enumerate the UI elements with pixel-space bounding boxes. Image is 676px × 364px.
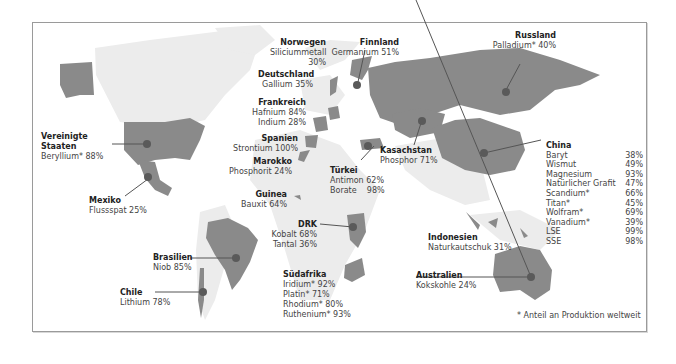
china-row: Natürlicher Grafit47% <box>546 179 643 189</box>
label-finland: Finnland Germanium 51% <box>331 38 399 58</box>
country-usa <box>124 118 205 165</box>
label-norway: Norwegen Siliciummetall 30% <box>270 38 326 68</box>
country-spain <box>305 135 318 148</box>
china-row: SSE98% <box>546 237 643 247</box>
label-china: China Baryt38% Wismut49% Magnesium93% Na… <box>546 141 643 247</box>
label-drc: DRK Kobalt 68% Tantal 36% <box>270 220 317 250</box>
china-row: Vanadium*39% <box>546 218 643 228</box>
footnote: * Anteil an Produktion weltweit <box>517 311 641 320</box>
label-south-africa: Südafrika Iridium* 92% Platin* 71% Rhodi… <box>283 270 351 320</box>
china-row: Titan*45% <box>546 199 643 209</box>
label-guinea: Guinea Bauxit 64% <box>240 190 287 210</box>
label-mexico: Mexiko Flussspat 25% <box>89 196 147 216</box>
country-germany <box>328 106 340 120</box>
label-spain: Spanien Strontium 100% <box>232 134 298 154</box>
label-turkey: Türkei Antimon 62% Borate 98% <box>330 166 385 196</box>
label-indonesia: Indonesien Naturkautschuk 31% <box>428 233 512 253</box>
country-france <box>313 116 328 132</box>
china-row: LSE99% <box>546 227 643 237</box>
china-row: Scandium*66% <box>546 189 643 199</box>
china-row: Wismut49% <box>546 160 643 170</box>
label-germany: Deutschland Gallium 35% <box>258 70 313 90</box>
label-brazil: Brasilien Niob 85% <box>153 253 193 273</box>
label-france: Frankreich Hafnium 84% Indium 28% <box>252 98 306 128</box>
label-australia: Australien Kokskohle 24% <box>416 271 476 291</box>
china-row: Wolfram*69% <box>546 208 643 218</box>
label-usa: Vereinigte Staaten Beryllium* 88% <box>41 132 103 162</box>
china-row: Baryt38% <box>546 151 643 161</box>
label-russia: Russland Palladium* 40% <box>490 31 556 51</box>
label-chile: Chile Lithium 78% <box>120 288 170 308</box>
country-alaska <box>60 62 94 98</box>
country-australia <box>493 246 552 300</box>
label-morocco: Marokko Phosphorit 24% <box>226 157 292 177</box>
label-kazakhstan: Kasachstan Phosphor 71% <box>380 146 438 166</box>
country-mexico <box>138 160 172 196</box>
china-row: Magnesium93% <box>546 170 643 180</box>
